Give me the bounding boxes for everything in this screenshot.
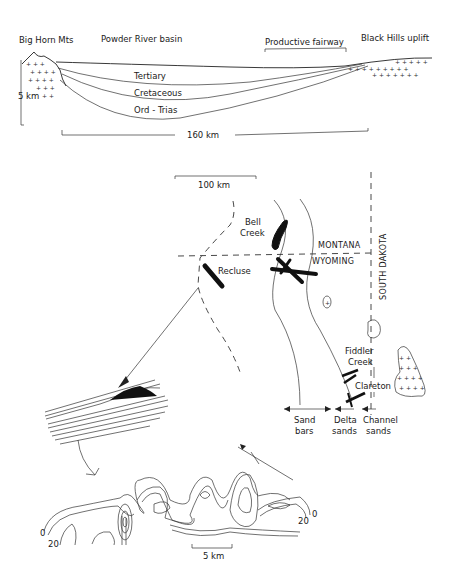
basement-crosses-right: + + + + + + + + + + + + + + + + + + + + … — [348, 58, 428, 78]
cretaceous-base — [62, 65, 365, 100]
direction-arrow — [238, 447, 293, 480]
dome-outline — [368, 320, 381, 338]
label-ord-trias: Ord - Trias — [134, 105, 178, 115]
black-hills-crosses: + + + + + + + + + + + + + — [397, 354, 425, 391]
isopach-map: 0 20 0 20 5 km — [40, 444, 317, 561]
svg-text:+ + +: + + + — [26, 60, 45, 67]
label-tertiary: Tertiary — [133, 71, 166, 81]
label-channel: Channel — [363, 415, 398, 425]
label-sand: Sand — [294, 415, 315, 425]
isopach-label-20-left: 20 — [48, 539, 59, 549]
ord-trias-base — [60, 66, 368, 119]
curved-arrow — [78, 440, 99, 475]
figure-canvas: Big Horn Mts Powder River basin Producti… — [0, 0, 455, 578]
svg-text:+ + + +: + + + + — [30, 68, 56, 75]
isopach-label-20-right: 20 — [298, 516, 309, 526]
map-scale-bar — [175, 176, 256, 179]
label-productive-fairway: Productive fairway — [265, 37, 344, 47]
label-sand-bars: bars — [295, 426, 314, 436]
label-big-horn: Big Horn Mts — [19, 35, 74, 45]
label-160km: 160 km — [187, 130, 219, 140]
dashed-shoreline — [198, 201, 240, 372]
label-montana: MONTANA — [318, 241, 361, 250]
label-bell: Bell — [245, 217, 261, 227]
strata-lines — [45, 380, 168, 444]
svg-text:+ +: + + — [42, 92, 54, 99]
label-5km: 5 km — [203, 551, 224, 561]
label-delta: Delta — [334, 415, 357, 425]
svg-text:+ + + + +: + + + + + — [395, 58, 428, 65]
isopach-contours — [44, 472, 310, 545]
svg-text:+ + + +: + + + + — [28, 76, 54, 83]
svg-text:+ + + +: + + + + — [399, 384, 425, 391]
isopach-scale-bar — [192, 544, 232, 548]
montana-wyoming-border — [178, 250, 372, 256]
label-wyoming: WYOMING — [312, 257, 354, 266]
cross-section: Big Horn Mts Powder River basin Producti… — [18, 33, 432, 140]
svg-text:+ + + +: + + + + — [397, 374, 423, 381]
field-cross-b — [272, 269, 316, 274]
label-south-dakota: SOUTH DAKOTA — [379, 233, 388, 300]
svg-text:+ + +: + + + — [36, 84, 55, 91]
pointer-line — [125, 288, 198, 380]
sand-bar-block-detail — [45, 288, 198, 475]
svg-text:+ + + + + + +: + + + + + + + — [372, 71, 419, 78]
horizontal-scale-left — [62, 130, 175, 135]
svg-text:+ +: + + — [399, 354, 411, 361]
label-100km: 100 km — [198, 180, 230, 190]
pointer-arrowhead — [118, 376, 129, 388]
label-bell-creek: Creek — [240, 228, 265, 238]
label-channel-sands: sands — [366, 426, 391, 436]
label-powder-river-basin: Powder River basin — [101, 34, 182, 44]
direction-tick — [251, 452, 259, 464]
label-delta-sands: sands — [332, 426, 357, 436]
isopach-label-0-right: 0 — [312, 509, 317, 519]
horizontal-scale-right — [235, 128, 368, 135]
label-black-hills: Black Hills uplift — [361, 33, 430, 43]
svg-text:+: + — [325, 299, 330, 306]
label-recluse: Recluse — [218, 266, 251, 276]
location-map: 100 km Bell Creek Recluse MONTANA WYOMIN… — [175, 172, 425, 436]
facies-arrows — [284, 406, 376, 412]
svg-text:+ + +: + + + — [399, 364, 418, 371]
label-5km-vertical: 5 km — [18, 91, 39, 101]
label-clareton: Clareton — [355, 381, 391, 391]
label-fiddler-creek: Creek — [348, 357, 373, 367]
label-cretaceous: Cretaceous — [134, 88, 183, 98]
fairway-bracket — [265, 48, 346, 52]
isopach-label-0-left: 0 — [40, 528, 45, 538]
label-fiddler: Fiddler — [345, 346, 374, 356]
